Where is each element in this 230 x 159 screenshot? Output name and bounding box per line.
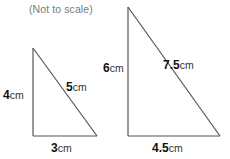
large-triangle-vertical-unit: cm	[110, 62, 124, 74]
small-triangle-vertical-value: 4	[3, 88, 10, 102]
large-triangle-vertical-value: 6	[103, 61, 110, 75]
small-triangle-hypotenuse-value: 5	[66, 80, 73, 94]
small-triangle-vertical-unit: cm	[10, 89, 24, 101]
large-triangle-hypotenuse-value: 7.5	[163, 58, 180, 72]
similar-triangles-figure: (Not to scale) 4cm 5cm 3cm 6cm 7.5cm 4.5…	[0, 0, 230, 159]
small-triangle-hypotenuse-side	[33, 48, 97, 136]
large-triangle-hypotenuse-label: 7.5cm	[163, 59, 194, 72]
small-triangle-hypotenuse-label: 5cm	[66, 81, 87, 94]
small-triangle-base-label: 3cm	[51, 142, 72, 155]
large-triangle-hypotenuse-unit: cm	[180, 59, 194, 71]
large-triangle-base-value: 4.5	[152, 141, 169, 155]
large-triangle-base-unit: cm	[169, 142, 183, 154]
small-triangle-shape	[33, 48, 97, 136]
small-triangle-base-unit: cm	[58, 142, 72, 154]
not-to-scale-note: (Not to scale)	[29, 3, 93, 15]
large-triangle-vertical-label: 6cm	[103, 62, 124, 75]
large-triangle-base-label: 4.5cm	[152, 142, 183, 155]
small-triangle-vertical-label: 4cm	[3, 89, 24, 102]
small-triangle-base-value: 3	[51, 141, 58, 155]
small-triangle-hypotenuse-unit: cm	[73, 81, 87, 93]
triangles-drawing	[0, 0, 230, 159]
